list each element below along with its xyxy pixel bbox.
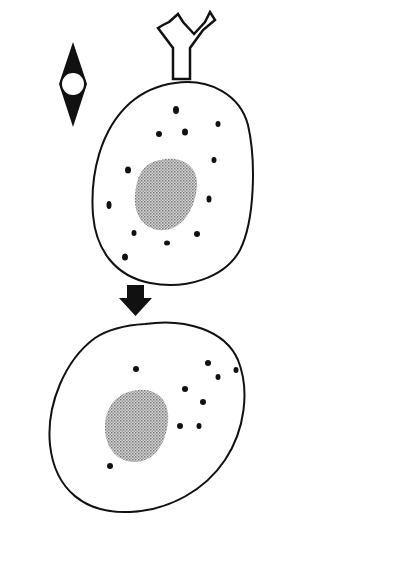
diagram-canvas: I've made a mistake in that draft: the s… (0, 0, 399, 567)
allergen-diamond-icon (59, 42, 87, 127)
ige-y-antibody-icon (158, 12, 215, 79)
mast-cell (92, 82, 252, 285)
down-arrow-icon (119, 285, 152, 316)
allergy-mechanism-diagram: I've made a mistake in that draft: the s… (0, 0, 399, 567)
sensitized-mast-cell: I've made a mistake in that draft: the s… (49, 323, 244, 513)
